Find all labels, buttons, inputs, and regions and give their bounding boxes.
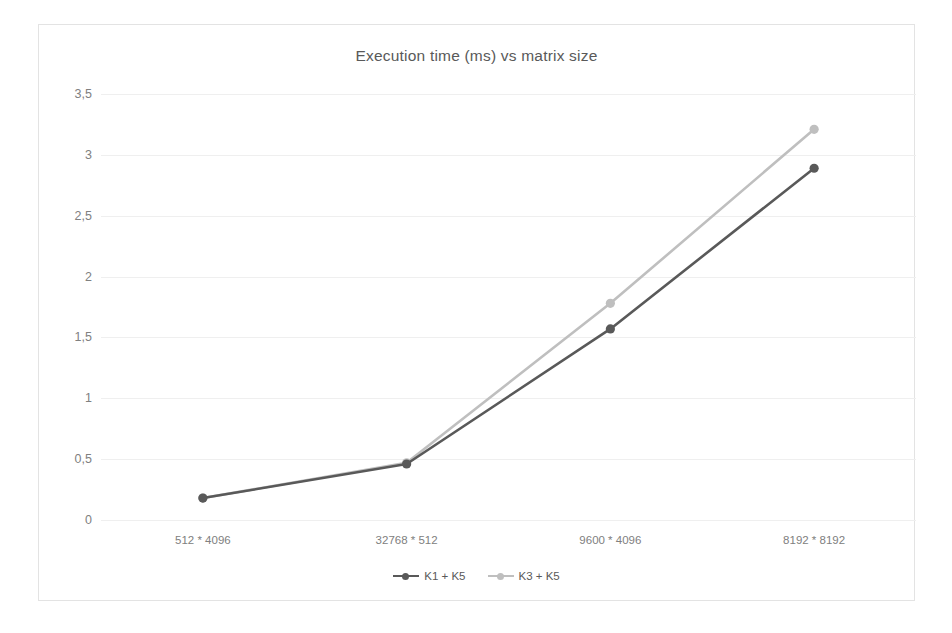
- legend-entry[interactable]: K3 + K5: [488, 570, 560, 582]
- y-axis-tick-label: 1: [85, 391, 92, 405]
- series-data-point: [402, 459, 411, 468]
- chart-frame: Execution time (ms) vs matrix size 00,51…: [38, 24, 915, 601]
- y-axis-tick-label: 1,5: [75, 330, 92, 344]
- series-data-point: [198, 493, 207, 502]
- series-data-point: [606, 324, 615, 333]
- series-data-point: [810, 164, 819, 173]
- legend-marker-dot-icon: [402, 573, 409, 580]
- legend-label: K1 + K5: [424, 570, 465, 582]
- y-axis-tick-label: 3,5: [75, 87, 92, 101]
- legend-entry[interactable]: K1 + K5: [393, 570, 465, 582]
- legend-swatch-icon: [488, 571, 514, 581]
- x-axis-tick-label: 9600 * 4096: [509, 534, 713, 554]
- chart-series-svg: [101, 94, 916, 520]
- series-data-point: [606, 299, 615, 308]
- y-axis-tick-label: 0,5: [75, 452, 92, 466]
- x-axis-labels: 512 * 409632768 * 5129600 * 40968192 * 8…: [101, 534, 916, 554]
- y-axis-tick-label: 2,5: [75, 209, 92, 223]
- chart-legend: K1 + K5K3 + K5: [39, 570, 914, 582]
- y-axis-tick-label: 2: [85, 270, 92, 284]
- y-axis-tick-label: 0: [85, 513, 92, 527]
- x-axis-tick-label: 512 * 4096: [101, 534, 305, 554]
- x-axis-tick-label: 8192 * 8192: [712, 534, 916, 554]
- y-axis-tick-label: 3: [85, 148, 92, 162]
- x-axis-tick-label: 32768 * 512: [305, 534, 509, 554]
- legend-label: K3 + K5: [519, 570, 560, 582]
- gridline: [101, 520, 916, 521]
- legend-marker-dot-icon: [497, 573, 504, 580]
- chart-title: Execution time (ms) vs matrix size: [39, 47, 914, 65]
- series-line: [203, 129, 814, 498]
- series-line: [203, 168, 814, 498]
- series-data-point: [810, 125, 819, 134]
- legend-swatch-icon: [393, 571, 419, 581]
- plot-area: 00,511,522,533,5: [101, 94, 916, 520]
